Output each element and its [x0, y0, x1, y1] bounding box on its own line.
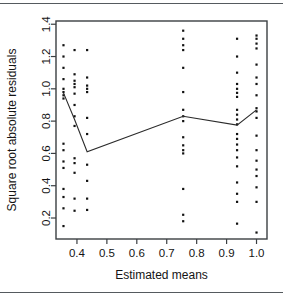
data-point — [62, 91, 64, 93]
data-point — [255, 94, 257, 96]
data-point — [236, 83, 238, 85]
data-point — [73, 73, 75, 75]
data-point — [255, 231, 257, 233]
data-point — [73, 198, 75, 200]
data-point — [255, 168, 257, 170]
plot-frame — [56, 21, 267, 239]
data-point — [62, 160, 64, 162]
data-point — [255, 160, 257, 162]
data-point — [236, 55, 238, 57]
data-point — [236, 118, 238, 120]
data-point — [62, 67, 64, 69]
data-point — [182, 144, 184, 146]
data-point — [73, 80, 75, 82]
data-point — [73, 172, 75, 174]
x-tick-label: 0.7 — [159, 247, 175, 259]
y-tick-label: 1.4 — [40, 16, 52, 33]
data-point — [255, 149, 257, 151]
data-point — [255, 107, 257, 109]
y-tick-label: 0.2 — [40, 210, 52, 226]
point-group-5 — [255, 34, 257, 233]
data-point — [236, 201, 238, 203]
data-point — [255, 76, 257, 78]
x-tick-label: 0.6 — [129, 247, 145, 259]
data-point — [73, 162, 75, 164]
data-point — [182, 149, 184, 151]
data-point — [182, 152, 184, 154]
x-tick-label: 0.4 — [69, 247, 86, 259]
x-tick-label: 1.0 — [249, 247, 265, 259]
data-point — [236, 96, 238, 98]
x-tick-label: 0.8 — [189, 247, 205, 259]
data-point — [86, 198, 88, 200]
data-point — [62, 55, 64, 57]
y-tick-label: 0.8 — [40, 113, 52, 129]
point-group-0 — [62, 44, 64, 227]
data-point — [62, 149, 64, 151]
data-point — [182, 136, 184, 138]
data-point — [86, 49, 88, 51]
data-point — [86, 88, 88, 90]
data-point — [255, 43, 257, 45]
data-point — [86, 91, 88, 93]
data-point — [255, 38, 257, 40]
data-point — [236, 165, 238, 167]
data-point — [236, 133, 238, 135]
data-point — [236, 38, 238, 40]
data-point — [86, 76, 88, 78]
data-point — [73, 86, 75, 88]
data-point — [236, 114, 238, 116]
y-axis-title: Square root absolute residuals — [5, 49, 19, 212]
data-point — [86, 209, 88, 211]
data-point — [73, 83, 75, 85]
data-point — [86, 133, 88, 135]
data-point — [255, 64, 257, 66]
data-point — [236, 88, 238, 90]
data-point — [182, 67, 184, 69]
data-point — [62, 167, 64, 169]
data-point — [62, 88, 64, 90]
data-point — [62, 225, 64, 227]
data-point — [236, 138, 238, 140]
data-point — [62, 207, 64, 209]
x-tick-label: 0.9 — [219, 247, 235, 259]
data-point — [182, 214, 184, 216]
data-point — [236, 92, 238, 94]
point-group-2 — [86, 49, 88, 211]
data-point — [62, 196, 64, 198]
data-point — [62, 44, 64, 46]
data-point — [236, 193, 238, 195]
data-point — [255, 47, 257, 49]
x-tick-label: 0.5 — [99, 247, 115, 259]
data-point — [62, 188, 64, 190]
x-axis-title: Estimated means — [115, 268, 208, 282]
data-point — [182, 91, 184, 93]
y-tick-label: 0.6 — [40, 145, 52, 161]
point-group-4 — [236, 38, 238, 225]
data-point — [236, 223, 238, 225]
data-point — [73, 210, 75, 212]
data-point — [255, 201, 257, 203]
data-point — [62, 78, 64, 80]
data-point — [255, 175, 257, 177]
data-point — [62, 143, 64, 145]
scatter-plot: 0.40.50.60.70.80.91.00.20.40.60.81.01.21… — [0, 0, 283, 302]
data-point — [255, 34, 257, 36]
data-point — [73, 93, 75, 95]
data-point — [73, 49, 75, 51]
data-point — [86, 84, 88, 86]
data-point — [86, 180, 88, 182]
data-point — [182, 38, 184, 40]
data-point — [182, 109, 184, 111]
data-point — [73, 157, 75, 159]
data-point — [236, 143, 238, 145]
y-tick-label: 0.4 — [40, 177, 52, 194]
data-point — [236, 149, 238, 151]
data-point — [86, 164, 88, 166]
data-point — [255, 186, 257, 188]
data-point — [255, 135, 257, 137]
data-point — [255, 117, 257, 119]
data-point — [236, 109, 238, 111]
data-point — [236, 156, 238, 158]
data-point — [182, 188, 184, 190]
